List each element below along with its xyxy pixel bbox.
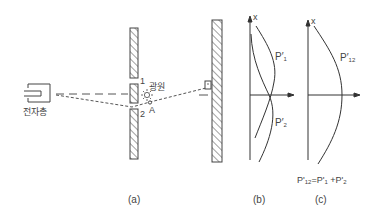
superposition-equation: P'12=P'1 +P'2	[297, 175, 347, 187]
axis-x-label-b: x	[253, 12, 258, 22]
graph-c	[306, 20, 360, 164]
curve-p1-label: P′1	[275, 52, 287, 64]
electron-gun-icon	[24, 84, 50, 102]
curve-p1	[255, 26, 275, 138]
graph-b	[248, 16, 294, 162]
axis-x-label-c: x	[311, 16, 316, 26]
point-a-marker	[148, 101, 151, 104]
slit-wall	[130, 28, 138, 159]
curve-p2-label: P′2	[275, 118, 287, 130]
caption-c: (c)	[315, 195, 327, 205]
slit-1-label: 1	[140, 76, 145, 86]
caption-a: (a)	[128, 195, 140, 205]
double-slit-diagram	[0, 0, 374, 220]
caption-b: (b)	[253, 195, 265, 205]
point-a-label: A	[149, 105, 155, 115]
detector-screen	[199, 20, 222, 162]
light-source-label: 광원	[149, 82, 165, 92]
slit-2-label: 2	[140, 109, 145, 119]
electron-gun-label: 전자총	[23, 107, 47, 117]
curve-p12-label: P′12	[340, 53, 355, 65]
